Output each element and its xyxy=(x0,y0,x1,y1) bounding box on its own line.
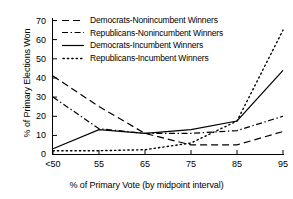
legend-label: Democrats-Incumbent Winners xyxy=(90,39,203,52)
legend-item-democrats-incumbent: Democrats-Incumbent Winners xyxy=(62,39,223,52)
legend-label: Republicans-Nonincumbent Winners xyxy=(90,27,223,40)
dash-dot-line-icon xyxy=(62,28,84,37)
legend: Democrats-Nonincumbent Winners Republica… xyxy=(62,14,223,64)
dashed-line-icon xyxy=(62,16,84,25)
x-tick-marks xyxy=(53,150,283,155)
series-line-republicans-nonincumbent xyxy=(53,97,283,133)
solid-line-icon xyxy=(62,41,84,50)
series-line-democrats-incumbent xyxy=(53,70,283,149)
legend-label: Democrats-Nonincumbent Winners xyxy=(90,14,218,27)
legend-item-democrats-nonincumbent: Democrats-Nonincumbent Winners xyxy=(62,14,223,27)
dotted-line-icon xyxy=(62,54,84,63)
legend-item-republicans-nonincumbent: Republicans-Nonincumbent Winners xyxy=(62,27,223,40)
legend-item-republicans-incumbent: Republicans-Incumbent Winners xyxy=(62,52,223,65)
legend-label: Republicans-Incumbent Winners xyxy=(90,52,209,65)
y-tick-marks xyxy=(53,21,58,155)
line-chart: % of Primary Elections Won 70 60 50 40 3… xyxy=(0,0,293,199)
